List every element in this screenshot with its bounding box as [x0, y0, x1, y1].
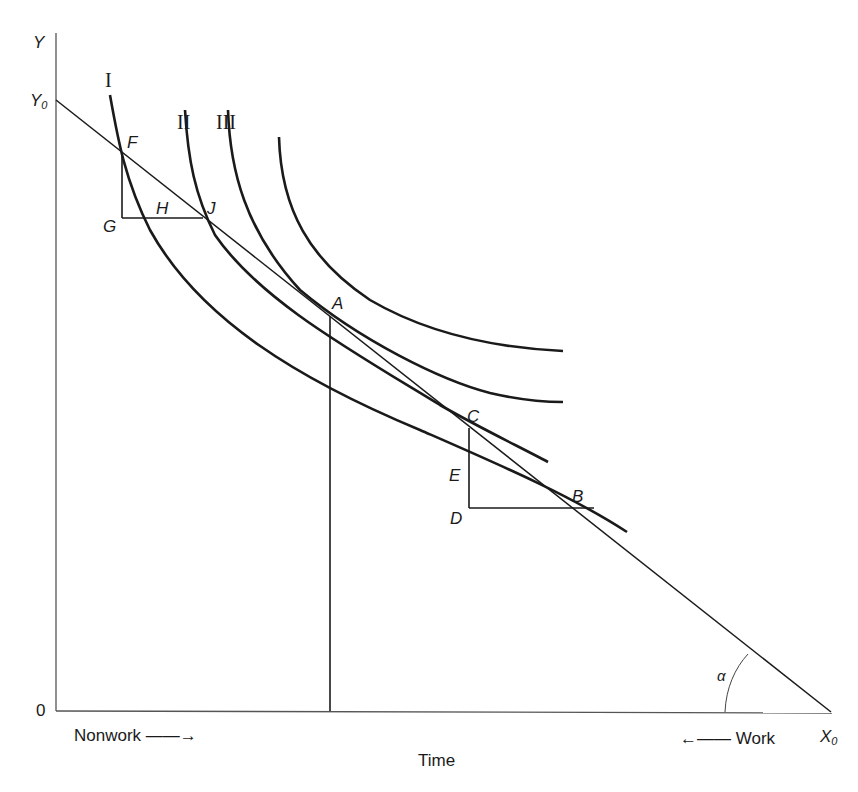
point-label-G: G: [103, 218, 116, 235]
indifference-curve-II: [185, 110, 548, 462]
diagram-canvas: [0, 0, 858, 792]
curve-label-I: I: [105, 70, 112, 90]
angle-alpha-label: α: [717, 668, 726, 683]
point-label-B: B: [572, 488, 583, 505]
x0-letter: X: [820, 727, 831, 746]
angle-alpha-arc: [725, 654, 748, 712]
indifference-curve-I: [110, 95, 627, 532]
work-direction-label: ←—— Work: [680, 730, 775, 747]
point-label-C: C: [467, 408, 479, 425]
x-intercept-label: X0: [820, 728, 837, 747]
nonwork-direction-label: Nonwork ——→: [74, 727, 197, 744]
y0-letter: Y: [30, 91, 41, 110]
point-label-F: F: [127, 134, 137, 151]
y-intercept-label: Y0: [30, 92, 47, 111]
point-label-D: D: [450, 510, 462, 527]
curve-label-II: II: [177, 112, 190, 132]
x-axis: [56, 711, 832, 713]
y-axis-label: Y: [33, 34, 44, 51]
point-label-A: A: [332, 295, 343, 312]
point-label-E: E: [449, 467, 460, 484]
point-label-J: J: [207, 200, 216, 217]
indifference-curve-IV: [279, 137, 563, 351]
curve-label-III: III: [216, 112, 236, 132]
x0-subscript: 0: [831, 735, 837, 747]
origin-label: 0: [36, 702, 45, 719]
point-label-H: H: [156, 200, 168, 217]
y0-subscript: 0: [41, 99, 47, 111]
x-axis-title: Time: [418, 752, 455, 769]
